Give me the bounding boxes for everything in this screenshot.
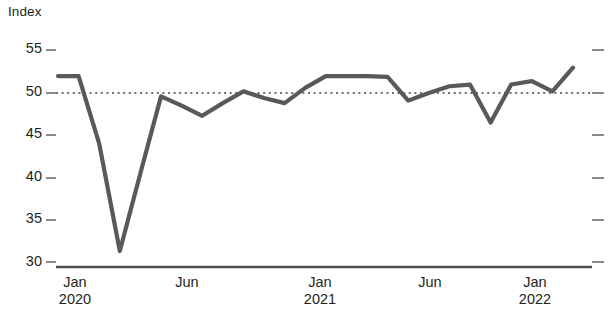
x-tick-label-jan-2021: Jan 2021 [290,274,350,308]
y-tick-marks [46,50,56,262]
x-tick-month: Jan [45,274,105,291]
x-tick-label-jan-2022: Jan 2022 [505,274,565,308]
x-tick-label-jun-2021: Jun [400,274,460,291]
x-tick-month: Jun [157,274,217,291]
x-tick-year: 2021 [290,291,350,308]
x-tick-year: 2020 [45,291,105,308]
x-tick-year: 2022 [505,291,565,308]
line-chart: Index 55 50 45 40 35 30 Jan 2020 Jun [0,0,613,328]
x-tick-month: Jun [400,274,460,291]
x-tick-label-jan-2020: Jan 2020 [45,274,105,308]
x-tick-month: Jan [505,274,565,291]
x-tick-label-jun-2020: Jun [157,274,217,291]
series-line-index [58,68,573,251]
x-tick-month: Jan [290,274,350,291]
y-tick-marks-right [592,50,604,262]
